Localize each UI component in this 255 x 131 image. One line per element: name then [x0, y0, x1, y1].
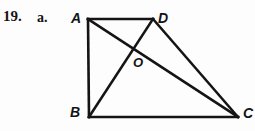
geometry-figure — [0, 0, 255, 131]
figure-line-group — [88, 19, 238, 117]
worksheet-figure-page: 19. a. A D B C O — [0, 0, 255, 131]
vertex-label-a: A — [71, 11, 81, 25]
vertex-label-b: B — [70, 105, 80, 119]
segment-dc — [153, 19, 238, 117]
vertex-label-c: C — [243, 106, 253, 120]
intersection-label-o: O — [133, 56, 143, 69]
segment-ab — [88, 19, 89, 117]
segment-ac-diagonal — [88, 19, 238, 117]
vertex-label-d: D — [158, 11, 168, 25]
segment-bd-diagonal — [89, 19, 153, 117]
